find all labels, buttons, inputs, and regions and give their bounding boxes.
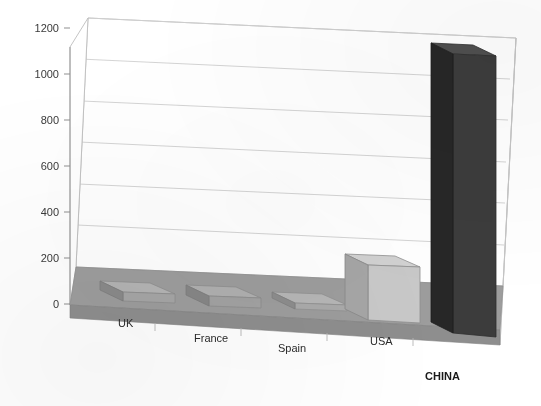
category-label-france: France [194, 332, 228, 344]
y-tick-label-200: 200 [41, 252, 59, 264]
bar-uk-front [123, 292, 175, 303]
bar-china-front [453, 54, 496, 337]
y-tick-label-1000: 1000 [35, 68, 59, 80]
category-label-spain: Spain [278, 342, 306, 354]
y-tick-label-600: 600 [41, 160, 59, 172]
category-label-china: CHINA [425, 370, 460, 382]
bar-usa-side [345, 254, 368, 320]
column-chart-3d: 1200 1000 800 600 400 200 0 [0, 0, 541, 406]
chart-canvas: 1200 1000 800 600 400 200 0 [0, 0, 541, 406]
bar-usa-front [368, 265, 420, 323]
bar-france-front [209, 296, 261, 308]
y-axis-tick-labels: 1200 1000 800 600 400 200 0 [35, 22, 59, 310]
category-label-usa: USA [370, 335, 393, 347]
y-axis-ticks [64, 28, 70, 304]
category-label-uk: UK [118, 317, 134, 329]
bar-china-side [431, 43, 453, 333]
y-tick-label-1200: 1200 [35, 22, 59, 34]
y-tick-label-400: 400 [41, 206, 59, 218]
y-tick-label-0: 0 [53, 298, 59, 310]
bar-china[interactable] [431, 43, 496, 337]
y-tick-label-800: 800 [41, 114, 59, 126]
bar-usa[interactable] [345, 254, 420, 323]
